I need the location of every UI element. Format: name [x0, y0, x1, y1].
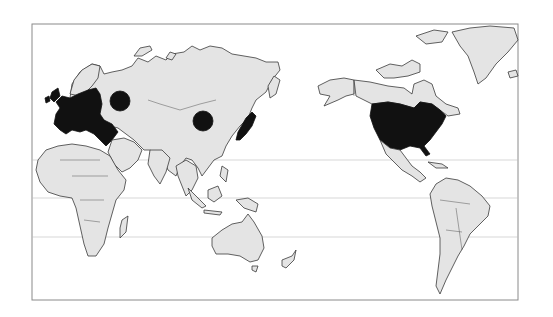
philippines	[220, 166, 228, 182]
ireland-highlight	[45, 96, 50, 103]
new-zealand	[282, 250, 296, 268]
tasmania	[252, 266, 258, 272]
usa-highlight	[370, 102, 446, 156]
caribbean	[428, 162, 448, 168]
arctic-islands-north	[416, 30, 448, 44]
borneo	[208, 186, 222, 202]
novaya-zemlya	[134, 46, 152, 56]
alaska	[318, 78, 354, 106]
indochina	[176, 160, 198, 196]
new-guinea	[236, 198, 258, 212]
madagascar	[120, 216, 128, 238]
china-marker	[193, 111, 213, 131]
world-map	[0, 0, 553, 317]
russia-marker	[110, 91, 130, 111]
india	[148, 150, 170, 184]
canadian-arctic-islands	[376, 60, 420, 78]
java	[204, 210, 222, 215]
iceland	[508, 70, 518, 78]
greenland	[452, 26, 518, 84]
australia	[212, 214, 264, 262]
